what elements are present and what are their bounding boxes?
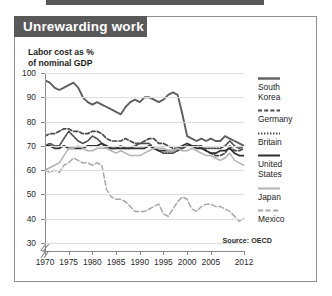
top-cutoff-strip-gap <box>46 5 264 7</box>
gridline-y-50 <box>45 194 244 195</box>
legend-swatch-icon <box>258 131 280 136</box>
legend-swatch-icon <box>258 186 280 191</box>
series-line-mexico <box>45 158 244 221</box>
y-axis-title-line-0: Labor cost as % <box>28 47 158 58</box>
x-tick-2012 <box>244 251 245 255</box>
x-tick-1985 <box>116 251 117 255</box>
x-tick-label-2012: 2012 <box>227 258 261 266</box>
legend-item-germany[interactable]: Germany <box>258 108 318 125</box>
gridline-y-80 <box>45 122 244 123</box>
y-tick-80 <box>41 122 45 123</box>
legend-divider <box>250 60 251 245</box>
y-tick-60 <box>41 170 45 171</box>
legend-item-japan[interactable]: Japan <box>258 186 318 203</box>
y-tick-label-40: 40 <box>14 215 36 223</box>
y-tick-50 <box>41 194 45 195</box>
plot-area <box>45 73 244 243</box>
x-tick-1990 <box>140 251 141 255</box>
y-tick-label-70: 70 <box>14 142 36 150</box>
gridline-y-30 <box>45 243 244 244</box>
legend-item-south-korea[interactable]: SouthKorea <box>258 76 318 102</box>
legend-item-united-states[interactable]: UnitedStates <box>258 153 318 179</box>
legend-label-line-0: Mexico <box>258 215 318 225</box>
gridline-y-40 <box>45 219 244 220</box>
gridline-y-90 <box>45 97 244 98</box>
legend-label-line-0: Britain <box>258 138 318 148</box>
chart-legend: SouthKoreaGermanyBritainUnitedStatesJapa… <box>258 76 318 231</box>
legend-label-line-0: Germany <box>258 115 318 125</box>
legend-item-britain[interactable]: Britain <box>258 131 318 148</box>
legend-item-mexico[interactable]: Mexico <box>258 208 318 225</box>
legend-swatch-icon <box>258 76 280 81</box>
gridline-y-100 <box>45 73 244 74</box>
x-tick-2000 <box>187 251 188 255</box>
series-line-south-korea <box>45 80 244 146</box>
y-tick-100 <box>41 73 45 74</box>
y-tick-label-50: 50 <box>14 190 36 198</box>
y-tick-30 <box>41 243 45 244</box>
legend-swatch-icon <box>258 208 280 213</box>
y-tick-label-90: 90 <box>14 93 36 101</box>
gridline-y-60 <box>45 170 244 171</box>
x-tick-1970 <box>45 251 46 255</box>
legend-label-line-0: Japan <box>258 193 318 203</box>
x-axis-line <box>45 251 245 252</box>
y-tick-label-80: 80 <box>14 118 36 126</box>
x-tick-2005 <box>211 251 212 255</box>
y-tick-label-100: 100 <box>14 69 36 77</box>
chart-header: Unrewarding work <box>14 16 147 37</box>
x-tick-1995 <box>163 251 164 255</box>
y-tick-90 <box>41 97 45 98</box>
x-tick-label-2005: 2005 <box>194 258 228 266</box>
y-tick-70 <box>41 146 45 147</box>
legend-label-line-1: States <box>258 170 318 180</box>
series-lines <box>45 73 244 243</box>
y-tick-40 <box>41 219 45 220</box>
gridline-y-70 <box>45 146 244 147</box>
y-axis-line <box>45 73 46 251</box>
y-axis-title: Labor cost as %of nominal GDP <box>28 47 158 69</box>
legend-swatch-icon <box>258 153 280 158</box>
x-tick-1980 <box>92 251 93 255</box>
legend-label-line-1: Korea <box>258 93 318 103</box>
y-axis-title-line-1: of nominal GDP <box>28 58 158 69</box>
series-line-germany <box>45 129 244 156</box>
y-tick-label-60: 60 <box>14 166 36 174</box>
page-title: Unrewarding work <box>14 20 144 34</box>
series-line-britain <box>45 131 244 153</box>
figure-root: Unrewarding work Labor cost as %of nomin… <box>0 0 332 296</box>
legend-swatch-icon <box>258 108 280 113</box>
y-tick-label-30: 30 <box>14 239 36 247</box>
x-tick-1975 <box>69 251 70 255</box>
